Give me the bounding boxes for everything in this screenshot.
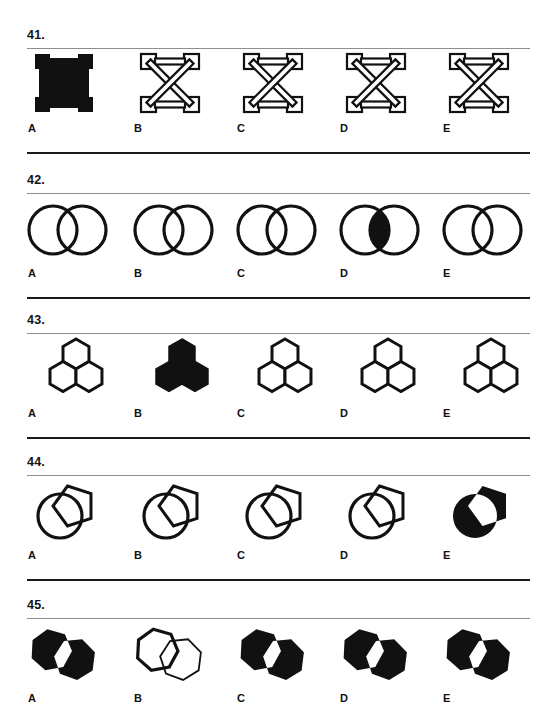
answer-option-c[interactable]: C [236,195,336,287]
separator-line-bottom [27,152,530,154]
answer-option-c[interactable]: C [236,620,336,705]
option-label: E [443,122,450,134]
option-label: C [237,692,245,704]
option-label: C [237,407,245,419]
option-row: ABCDE [0,50,553,142]
answer-option-b[interactable]: B [133,195,233,287]
three-hexagon-cluster-icon [133,335,229,405]
option-label: D [340,122,348,134]
option-label: D [340,549,348,561]
option-label: A [28,122,36,134]
two-overlapping-circles-icon [27,195,123,265]
option-row: ABCDE [0,477,553,569]
circle-overlapping-pentagon-icon [442,477,538,547]
answer-option-e[interactable]: E [442,195,542,287]
answer-option-c[interactable]: C [236,477,336,569]
option-label: C [237,267,245,279]
option-label: B [134,267,142,279]
two-overlapping-heptagons-icon [236,620,332,690]
option-label: B [134,407,142,419]
answer-option-e[interactable]: E [442,477,542,569]
three-hexagon-cluster-icon [27,335,123,405]
answer-option-a[interactable]: A [27,50,127,142]
option-label: D [340,692,348,704]
question-number: 42. [27,173,45,187]
two-overlapping-circles-icon [133,195,229,265]
three-hexagon-cluster-icon [442,335,538,405]
separator-line-bottom [27,297,530,299]
question-number: 43. [27,313,45,327]
answer-option-c[interactable]: C [236,335,336,427]
option-label: B [134,122,142,134]
square-frame-with-x-cross-icon [27,50,123,120]
two-overlapping-circles-icon [236,195,332,265]
question-number: 41. [27,28,45,42]
option-row: ABCDE [0,620,553,705]
three-hexagon-cluster-icon [236,335,332,405]
option-label: E [443,549,450,561]
answer-option-d[interactable]: D [339,50,439,142]
option-label: D [340,407,348,419]
two-overlapping-heptagons-icon [133,620,229,690]
separator-line-top [27,475,530,476]
option-label: A [28,692,36,704]
separator-line-top [27,618,530,619]
square-frame-with-x-cross-icon [442,50,538,120]
answer-option-e[interactable]: E [442,50,542,142]
option-row: ABCDE [0,335,553,427]
answer-option-d[interactable]: D [339,477,439,569]
answer-option-b[interactable]: B [133,620,233,705]
question-number: 45. [27,598,45,612]
answer-option-d[interactable]: D [339,335,439,427]
two-overlapping-heptagons-icon [27,620,123,690]
question-number: 44. [27,455,45,469]
two-overlapping-circles-icon [339,195,435,265]
option-label: A [28,267,36,279]
option-label: D [340,267,348,279]
answer-option-a[interactable]: A [27,195,127,287]
circle-overlapping-pentagon-icon [133,477,229,547]
circle-overlapping-pentagon-icon [27,477,123,547]
square-frame-with-x-cross-icon [133,50,229,120]
option-label: A [28,407,36,419]
option-row: ABCDE [0,195,553,287]
answer-option-a[interactable]: A [27,335,127,427]
answer-option-a[interactable]: A [27,620,127,705]
answer-option-a[interactable]: A [27,477,127,569]
separator-line-bottom [27,437,530,439]
two-overlapping-circles-icon [442,195,538,265]
test-page: 41.ABCDE42.ABCDE43.ABCDE44.ABCDE45.ABCDE [0,0,553,705]
option-label: A [28,549,36,561]
answer-option-b[interactable]: B [133,50,233,142]
answer-option-d[interactable]: D [339,195,439,287]
answer-option-e[interactable]: E [442,335,542,427]
option-label: E [443,692,450,704]
answer-option-b[interactable]: B [133,335,233,427]
two-overlapping-heptagons-icon [339,620,435,690]
square-frame-with-x-cross-icon [236,50,332,120]
two-overlapping-heptagons-icon [442,620,538,690]
three-hexagon-cluster-icon [339,335,435,405]
separator-line-bottom [27,579,530,581]
option-label: C [237,122,245,134]
square-frame-with-x-cross-icon [339,50,435,120]
option-label: B [134,549,142,561]
option-label: C [237,549,245,561]
answer-option-e[interactable]: E [442,620,542,705]
option-label: E [443,407,450,419]
separator-line-top [27,193,530,194]
option-label: B [134,692,142,704]
answer-option-c[interactable]: C [236,50,336,142]
separator-line-top [27,333,530,334]
separator-line-top [27,48,530,49]
answer-option-b[interactable]: B [133,477,233,569]
circle-overlapping-pentagon-icon [236,477,332,547]
option-label: E [443,267,450,279]
circle-overlapping-pentagon-icon [339,477,435,547]
answer-option-d[interactable]: D [339,620,439,705]
